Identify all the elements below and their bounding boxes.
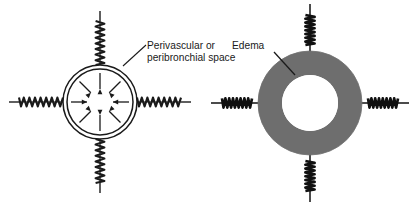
label-perivascular-line2: peribronchial space xyxy=(147,52,236,63)
figure-root: Perivascular or peribronchial space Edem… xyxy=(0,0,419,203)
label-perivascular-line1: Perivascular or xyxy=(147,40,216,51)
vessel-lumen-edema xyxy=(282,75,338,131)
label-edema: Edema xyxy=(232,40,265,51)
